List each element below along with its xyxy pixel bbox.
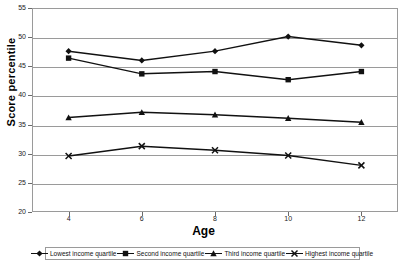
chart-container: Score percentile 2025303540455055 468101… — [0, 0, 407, 264]
x-axis-title: Age — [0, 224, 407, 238]
legend-label: Lowest income quartile — [48, 250, 117, 257]
gridline — [33, 96, 397, 97]
data-point-diamond — [36, 250, 42, 256]
y-tick-label: 20 — [0, 208, 26, 215]
legend-item[interactable]: Highest income quartile — [286, 249, 374, 258]
plot-area — [32, 8, 398, 212]
gridline — [33, 155, 397, 156]
y-tick-label: 45 — [0, 62, 26, 69]
chart-legend: Lowest income quartileSecond income quar… — [45, 247, 360, 260]
legend-item[interactable]: Lowest income quartile — [31, 249, 117, 258]
x-tick-label: 12 — [346, 215, 376, 222]
gridline — [33, 184, 397, 185]
gridline — [33, 126, 397, 127]
y-tick-label: 25 — [0, 179, 26, 186]
x-tick-mark — [288, 212, 289, 216]
data-point-triangle — [211, 250, 217, 256]
legend-marker-square-icon — [117, 249, 134, 258]
x-tick-label: 4 — [54, 215, 84, 222]
legend-label: Highest income quartile — [303, 250, 374, 257]
legend-label: Second income quartile — [134, 250, 205, 257]
y-tick-label: 50 — [0, 33, 26, 40]
legend-label: Third income quartile — [222, 250, 286, 257]
data-point-x — [292, 251, 298, 257]
gridline — [33, 67, 397, 68]
y-tick-label: 40 — [0, 91, 26, 98]
legend-marker-triangle-icon — [205, 249, 222, 258]
legend-marker-diamond-icon — [31, 249, 48, 258]
x-tick-mark — [361, 212, 362, 216]
data-point-square — [123, 251, 128, 256]
y-tick-label: 55 — [0, 4, 26, 11]
y-tick-label: 30 — [0, 150, 26, 157]
legend-item[interactable]: Second income quartile — [117, 249, 205, 258]
legend-item[interactable]: Third income quartile — [205, 249, 286, 258]
x-tick-label: 6 — [127, 215, 157, 222]
x-tick-label: 10 — [273, 215, 303, 222]
x-tick-mark — [69, 212, 70, 216]
x-tick-mark — [142, 212, 143, 216]
y-tick-mark — [28, 212, 32, 213]
gridline — [33, 38, 397, 39]
x-tick-label: 8 — [200, 215, 230, 222]
y-tick-label: 35 — [0, 121, 26, 128]
legend-marker-x-icon — [286, 249, 303, 258]
x-tick-mark — [215, 212, 216, 216]
